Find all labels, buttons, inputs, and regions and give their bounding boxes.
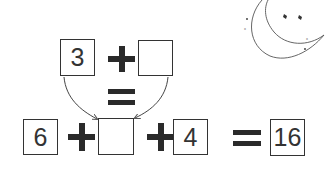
plus-icon xyxy=(108,46,135,72)
bottom-term1-box: 6 xyxy=(23,119,58,155)
svg-text:x: x xyxy=(244,26,246,31)
equals-icon xyxy=(108,89,135,105)
star-icon xyxy=(283,14,287,19)
bottom-blank-box[interactable] xyxy=(98,118,134,155)
svg-text:x: x xyxy=(306,36,308,41)
equals-icon xyxy=(233,130,261,146)
arrow-right xyxy=(135,77,168,118)
star-icon xyxy=(298,15,302,20)
top-left-number-box: 3 xyxy=(60,39,95,76)
bottom-term3-box: 4 xyxy=(173,119,208,155)
arrow-left xyxy=(64,77,97,119)
result-box: 16 xyxy=(270,119,305,156)
plus-icon xyxy=(68,123,95,151)
top-right-blank-box[interactable] xyxy=(138,40,173,76)
crescent-moon-icon: x x xyxy=(244,0,324,58)
plus-icon xyxy=(147,123,174,151)
